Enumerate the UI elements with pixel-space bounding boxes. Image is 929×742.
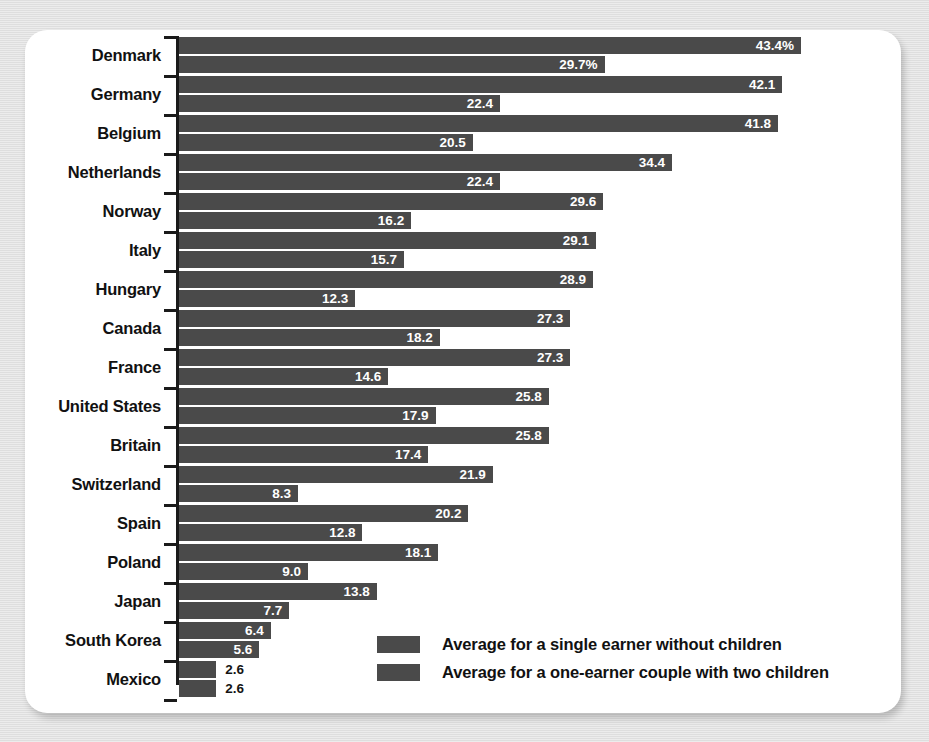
bar-group: 6.4: [179, 622, 271, 639]
bar-value-label: 2.6: [225, 661, 244, 678]
bar-value-label: 34.4: [639, 154, 665, 171]
bar[interactable]: [179, 505, 468, 522]
bar[interactable]: [179, 310, 570, 327]
bar[interactable]: [179, 407, 436, 424]
bar[interactable]: [179, 134, 473, 151]
category-label: South Korea: [65, 621, 161, 660]
bar-group: 8.3: [179, 485, 298, 502]
bar-value-label: 7.7: [264, 602, 283, 619]
legend-item[interactable]: Average for a one-earner couple with two…: [377, 658, 877, 686]
bar[interactable]: [179, 173, 500, 190]
bar-group: 13.8: [179, 583, 377, 600]
bar[interactable]: [179, 388, 549, 405]
chart-row: Britain25.817.4: [25, 426, 901, 465]
bar-group: 20.2: [179, 505, 468, 522]
category-label: Netherlands: [68, 153, 161, 192]
bar-group: 42.1: [179, 76, 782, 93]
bar-value-label: 29.1: [563, 232, 589, 249]
chart-row: France27.314.6: [25, 348, 901, 387]
row-bars: 34.422.4: [179, 153, 901, 192]
bar-value-label: 41.8: [745, 115, 771, 132]
category-label: Germany: [91, 75, 161, 114]
chart-row: Poland18.19.0: [25, 543, 901, 582]
legend-item[interactable]: Average for a single earner without chil…: [377, 630, 877, 658]
bar-group: 12.3: [179, 290, 355, 307]
row-bars: 42.122.4: [179, 75, 901, 114]
category-label: Switzerland: [72, 465, 162, 504]
bar-group: 18.1: [179, 544, 438, 561]
category-label: Britain: [110, 426, 161, 465]
chart-legend: Average for a single earner without chil…: [377, 630, 877, 686]
bar-group: 27.3: [179, 349, 570, 366]
bar[interactable]: [179, 212, 411, 229]
bar[interactable]: [179, 115, 778, 132]
bar[interactable]: [179, 680, 216, 697]
bar-group: 25.8: [179, 427, 549, 444]
row-bars: 13.87.7: [179, 582, 901, 621]
bar-group: 17.4: [179, 446, 428, 463]
bar-value-label: 42.1: [749, 76, 775, 93]
bar-value-label: 29.6: [570, 193, 596, 210]
bar-group: 12.8: [179, 524, 362, 541]
bar[interactable]: [179, 349, 570, 366]
bar-group: 20.5: [179, 134, 473, 151]
bar[interactable]: [179, 56, 605, 73]
bar-value-label: 22.4: [467, 173, 493, 190]
bar[interactable]: [179, 427, 549, 444]
axis-tick: [164, 699, 177, 702]
bar-value-label: 25.8: [515, 388, 541, 405]
bar-group: 25.8: [179, 388, 549, 405]
bar[interactable]: [179, 329, 440, 346]
bar[interactable]: [179, 76, 782, 93]
bar-group: 21.9: [179, 466, 493, 483]
row-bars: 18.19.0: [179, 543, 901, 582]
bar[interactable]: [179, 193, 603, 210]
bar-group: 14.6: [179, 368, 388, 385]
bar[interactable]: [179, 37, 801, 54]
bar-group: 29.1: [179, 232, 596, 249]
bar[interactable]: [179, 271, 593, 288]
bar-group: 5.6: [179, 641, 259, 658]
bar-group: 34.4: [179, 154, 672, 171]
bar-value-label: 21.9: [460, 466, 486, 483]
bar-value-label: 43.4%: [756, 37, 794, 54]
bar-group: 43.4%: [179, 37, 801, 54]
bar[interactable]: [179, 661, 216, 678]
category-label: Denmark: [92, 36, 161, 75]
chart-row: Spain20.212.8: [25, 504, 901, 543]
bar-group: 22.4: [179, 95, 500, 112]
bar[interactable]: [179, 544, 438, 561]
bar-value-label: 28.9: [560, 271, 586, 288]
chart-row: Canada27.318.2: [25, 309, 901, 348]
category-label: United States: [58, 387, 161, 426]
bar[interactable]: [179, 154, 672, 171]
bar-group: 2.6: [179, 680, 216, 697]
chart-row: Switzerland21.98.3: [25, 465, 901, 504]
chart-row: Germany42.122.4: [25, 75, 901, 114]
bar[interactable]: [179, 232, 596, 249]
bar[interactable]: [179, 95, 500, 112]
bar-group: 17.9: [179, 407, 436, 424]
chart-row: Norway29.616.2: [25, 192, 901, 231]
category-label: Hungary: [95, 270, 161, 309]
category-label: Canada: [103, 309, 161, 348]
bar-value-label: 12.8: [329, 524, 355, 541]
bar-value-label: 13.8: [343, 583, 369, 600]
chart-row: United States25.817.9: [25, 387, 901, 426]
bar-value-label: 2.6: [225, 680, 244, 697]
bar-value-label: 5.6: [233, 641, 252, 658]
legend-label: Average for a single earner without chil…: [442, 635, 782, 654]
bar-value-label: 18.2: [407, 329, 433, 346]
legend-label: Average for a one-earner couple with two…: [442, 663, 829, 682]
bar-value-label: 20.5: [439, 134, 465, 151]
bar[interactable]: [179, 466, 493, 483]
bar-value-label: 17.9: [402, 407, 428, 424]
bar-value-label: 20.2: [435, 505, 461, 522]
bar-group: 15.7: [179, 251, 404, 268]
bar-value-label: 22.4: [467, 95, 493, 112]
chart-row: Denmark43.4%29.7%: [25, 36, 901, 75]
bar[interactable]: [179, 446, 428, 463]
category-label: Belgium: [97, 114, 161, 153]
bar-group: 27.3: [179, 310, 570, 327]
bar-group: 22.4: [179, 173, 500, 190]
